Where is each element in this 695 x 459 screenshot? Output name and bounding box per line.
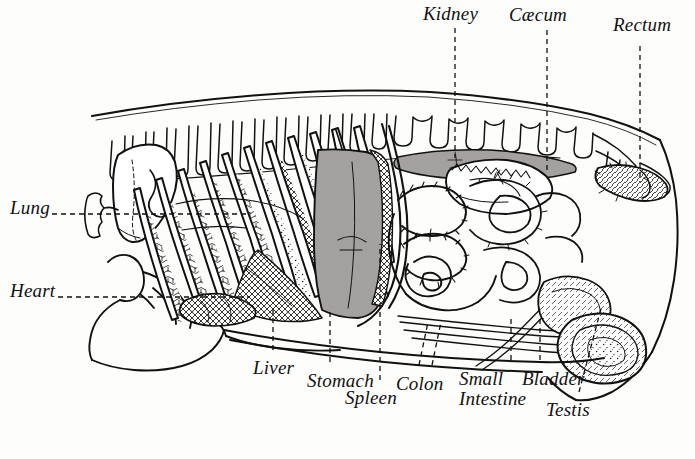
- label-heart: Heart: [10, 281, 55, 302]
- rectum-organ: [595, 162, 668, 201]
- body-outline-dorsal: [92, 91, 660, 140]
- label-lung: Lung: [10, 198, 50, 219]
- label-spleen: Spleen: [345, 388, 397, 409]
- label-rectum: Rectum: [613, 15, 671, 36]
- colon-leader-b: [432, 322, 441, 365]
- anatomical-figure: Kidney Cæcum Rectum Lung Heart Liver Sto…: [0, 0, 695, 459]
- colon-leader-a: [419, 322, 428, 365]
- label-kidney: Kidney: [423, 4, 478, 25]
- label-testis: Testis: [546, 400, 590, 421]
- label-small-intestine: Small Intestine: [459, 369, 526, 409]
- label-liver: Liver: [253, 358, 294, 379]
- label-colon: Colon: [396, 374, 443, 395]
- label-bladder: Bladder: [522, 369, 585, 390]
- label-caecum: Cæcum: [509, 5, 567, 26]
